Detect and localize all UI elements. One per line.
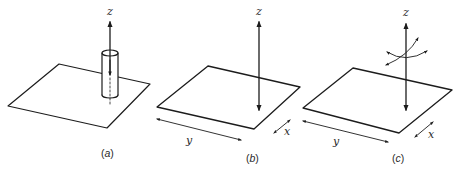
caption-c: (c): [392, 152, 404, 164]
panel-b: z y x (b): [157, 5, 300, 164]
y-label-b: y: [185, 134, 193, 147]
caption-b: (b): [246, 152, 259, 164]
plate-a: [8, 64, 150, 128]
z-label-b: z: [255, 5, 262, 18]
panel-c: z y x (c): [303, 6, 452, 164]
x-label-c: x: [428, 128, 435, 141]
caption-a: (a): [101, 147, 114, 159]
y-arrow-c: [303, 121, 388, 142]
x-label-b: x: [284, 125, 291, 138]
y-arrow-b: [157, 119, 241, 140]
y-label-c: y: [332, 135, 340, 148]
plate-b: [157, 66, 300, 129]
figure-diagram: z (a) z y x (b) z y x (c: [0, 0, 455, 174]
z-label-a: z: [106, 5, 113, 18]
panel-a: z (a): [8, 5, 150, 159]
plate-c: [303, 68, 452, 133]
z-label-c: z: [402, 6, 409, 19]
